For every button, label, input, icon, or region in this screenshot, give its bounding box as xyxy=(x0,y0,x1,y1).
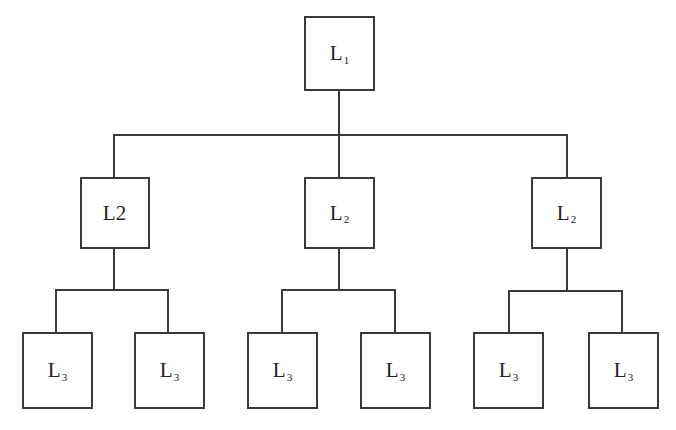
node-level2-left: L2 xyxy=(80,177,150,249)
node-label: L xyxy=(499,358,512,383)
node-label: L xyxy=(273,358,286,383)
connector-l2-left-down xyxy=(113,248,115,290)
node-subscript: 2 xyxy=(571,213,577,225)
node-subscript: 3 xyxy=(287,371,293,383)
connector-l2-middle-down xyxy=(338,248,340,290)
connector-l3-bar-middle xyxy=(281,289,396,291)
hierarchy-diagram: L1 L2 L2 L2 L3 L3 L3 L3 L3 L3 xyxy=(0,0,676,430)
node-subscript: 3 xyxy=(400,371,406,383)
connector-l3-bar-left xyxy=(55,289,169,291)
node-label: L xyxy=(160,358,173,383)
connector-l3-f xyxy=(621,290,623,333)
node-label: L xyxy=(48,358,61,383)
node-level3-4: L3 xyxy=(360,332,431,409)
connector-to-l2-left xyxy=(113,134,115,178)
node-subscript: 3 xyxy=(513,371,519,383)
connector-l3-e xyxy=(508,290,510,333)
connector-l3-a xyxy=(55,289,57,333)
node-subscript: 3 xyxy=(628,371,634,383)
node-subscript: 3 xyxy=(62,371,68,383)
connector-l3-bar-right xyxy=(508,290,623,292)
connector-level2-bar xyxy=(113,134,568,136)
node-level3-6: L3 xyxy=(588,332,659,409)
node-subscript: 3 xyxy=(174,371,180,383)
node-subscript: 1 xyxy=(344,54,350,66)
node-level3-5: L3 xyxy=(473,332,544,409)
connector-l3-b xyxy=(167,289,169,333)
node-level3-1: L3 xyxy=(22,332,93,409)
node-level2-right: L2 xyxy=(531,177,602,249)
node-root: L1 xyxy=(304,16,375,91)
connector-l3-d xyxy=(394,289,396,333)
node-label: L xyxy=(330,41,343,66)
node-label: L xyxy=(614,358,627,383)
node-label: L2 xyxy=(103,201,126,226)
node-label: L xyxy=(386,358,399,383)
node-subscript: 2 xyxy=(344,213,350,225)
connector-l3-c xyxy=(281,289,283,333)
node-label: L xyxy=(557,201,570,226)
node-label: L xyxy=(330,201,343,226)
connector-l2-right-down xyxy=(566,248,568,290)
connector-to-l2-right xyxy=(566,134,568,178)
node-level3-3: L3 xyxy=(247,332,318,409)
node-level3-2: L3 xyxy=(134,332,205,409)
node-level2-middle: L2 xyxy=(304,177,375,249)
